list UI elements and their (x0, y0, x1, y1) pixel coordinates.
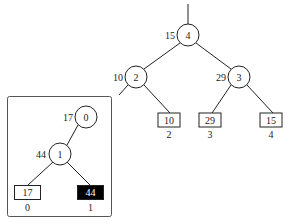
edge-2-leaf-10 (144, 85, 170, 113)
node-id: 4 (186, 30, 191, 41)
node-4: 4 15 (165, 24, 199, 46)
leaf-value: 10 (164, 115, 174, 126)
node-id: 2 (134, 72, 139, 83)
node-id: 1 (58, 149, 63, 160)
edge-4-2 (144, 43, 180, 69)
main-tree-edges (119, 4, 273, 113)
node-3: 3 29 (216, 66, 250, 88)
leaf-4: 15 4 (260, 113, 282, 140)
edge-2-left-truncated (119, 85, 128, 95)
leaf-value: 17 (23, 187, 33, 198)
edge-4-3 (196, 43, 231, 69)
edge-3-leaf-29 (212, 85, 231, 113)
leaf-3: 29 3 (199, 113, 221, 140)
node-id: 0 (84, 112, 89, 123)
edge-3-leaf-15 (247, 85, 273, 113)
leaf-value: 44 (86, 187, 96, 198)
leaf-2: 10 2 (158, 113, 180, 140)
node-2: 2 10 (113, 66, 147, 88)
node-id: 3 (237, 72, 242, 83)
node-weight: 29 (216, 72, 226, 83)
leaf-index: 3 (208, 129, 213, 140)
node-weight: 17 (63, 112, 73, 123)
leaf-index: 4 (269, 129, 274, 140)
leaf-index: 1 (88, 202, 93, 213)
leaf-value: 29 (205, 115, 215, 126)
inset-panel: 0 17 1 44 17 0 44 1 (8, 97, 112, 217)
leaf-index: 2 (167, 129, 172, 140)
node-weight: 44 (36, 149, 46, 160)
node-weight: 15 (165, 30, 175, 41)
leaf-index: 0 (25, 202, 30, 213)
node-weight: 10 (113, 72, 123, 83)
leaf-value: 15 (266, 115, 276, 126)
tree-diagram: 4 15 2 10 3 29 10 2 29 3 15 4 0 17 (0, 0, 292, 224)
